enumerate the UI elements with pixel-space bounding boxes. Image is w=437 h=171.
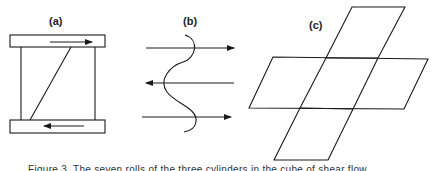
middle-band [249, 57, 428, 109]
top-cell [326, 7, 405, 58]
panel-a-shear-block [10, 35, 105, 133]
middle-divider-right [353, 58, 378, 109]
panel-b-wavy-flow [142, 35, 234, 132]
figure-caption: Figure 3. The seven rolls of the three c… [28, 164, 367, 171]
shear-diagonal [30, 47, 71, 120]
middle-divider-left [300, 58, 326, 108]
top-plate [10, 35, 105, 47]
panel-c-parallelogram-net [249, 7, 428, 160]
figure-diagram [0, 0, 437, 171]
bottom-cell [274, 108, 353, 160]
